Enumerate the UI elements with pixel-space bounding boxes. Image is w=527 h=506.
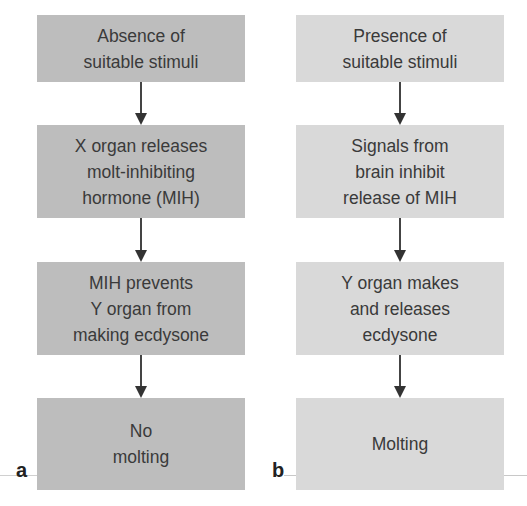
panel-label-a: a: [16, 459, 27, 482]
arrow-down-icon: [140, 218, 142, 260]
step-box-a-4: No molting: [37, 398, 245, 490]
step-text: X organ releases molt-inhibiting hormone…: [75, 133, 207, 211]
arrow-down-icon: [399, 218, 401, 260]
step-box-a-2: X organ releases molt-inhibiting hormone…: [37, 125, 245, 218]
step-text: Molting: [372, 431, 428, 457]
arrow-down-icon: [140, 82, 142, 123]
step-text: Signals from brain inhibit release of MI…: [343, 133, 457, 211]
flowchart-panel-a: Absence of suitable stimuli X organ rele…: [37, 0, 245, 506]
arrow-down-icon: [399, 82, 401, 123]
step-text: Presence of suitable stimuli: [343, 23, 458, 75]
step-box-a-3: MIH prevents Y organ from making ecdyson…: [37, 262, 245, 355]
panel-label-b: b: [272, 459, 284, 482]
flowchart-panel-b: Presence of suitable stimuli Signals fro…: [296, 0, 504, 506]
step-box-b-2: Signals from brain inhibit release of MI…: [296, 125, 504, 218]
step-box-a-1: Absence of suitable stimuli: [37, 15, 245, 82]
arrow-down-icon: [140, 355, 142, 396]
step-box-b-1: Presence of suitable stimuli: [296, 15, 504, 82]
step-text: No molting: [113, 418, 169, 470]
arrow-down-icon: [399, 355, 401, 396]
step-text: Y organ makes and releases ecdysone: [341, 270, 458, 348]
step-text: Absence of suitable stimuli: [84, 23, 199, 75]
step-text: MIH prevents Y organ from making ecdyson…: [73, 270, 209, 348]
step-box-b-4: Molting: [296, 398, 504, 490]
step-box-b-3: Y organ makes and releases ecdysone: [296, 262, 504, 355]
